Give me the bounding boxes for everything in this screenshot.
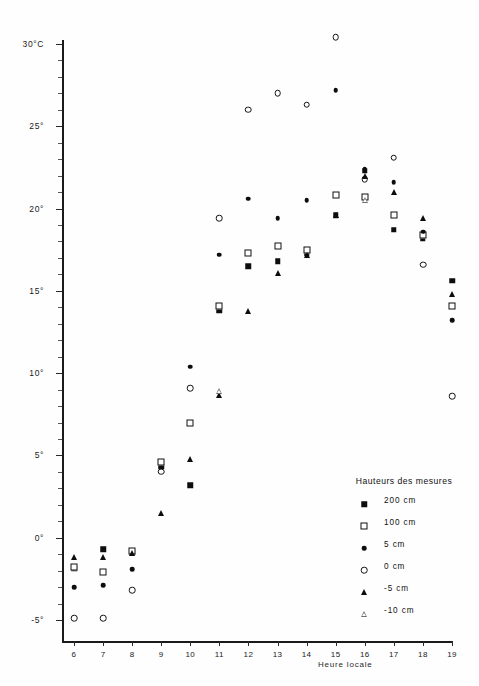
data-point	[188, 364, 193, 369]
legend-marker-filled-square	[361, 501, 367, 507]
x-tick	[394, 641, 395, 646]
y-tick	[56, 620, 62, 621]
data-point	[449, 278, 455, 284]
y-tick	[58, 472, 62, 473]
data-point	[275, 216, 280, 221]
y-axis-line	[62, 40, 64, 642]
data-point	[100, 569, 107, 576]
x-tick	[161, 641, 162, 646]
data-point	[303, 102, 310, 109]
x-tick-label: 6	[64, 650, 84, 659]
scatter-chart-figure: 30°C25°20°15°10°5°0°-5° 6789101112131415…	[0, 0, 479, 686]
data-point	[158, 469, 165, 476]
y-tick	[58, 324, 62, 325]
data-point	[449, 393, 456, 400]
data-point	[71, 554, 77, 560]
y-tick	[56, 373, 62, 374]
x-tick-label: 14	[297, 650, 317, 659]
legend-label: 0 cm	[384, 562, 405, 571]
x-tick	[219, 641, 220, 646]
data-point	[71, 564, 78, 571]
data-point	[274, 90, 281, 97]
y-tick	[56, 126, 62, 127]
data-point	[391, 189, 397, 195]
y-tick	[58, 439, 62, 440]
data-point	[130, 567, 135, 572]
x-tick-label: 18	[413, 650, 433, 659]
y-tick-label: 20°	[0, 204, 44, 214]
y-tick	[58, 571, 62, 572]
data-point	[333, 88, 338, 93]
legend-marker-open-circle	[361, 567, 368, 574]
x-tick-label: 10	[180, 650, 200, 659]
legend: Hauteurs des mesures 200 cm100 cm5 cm0 c…	[338, 476, 470, 627]
x-tick	[336, 641, 337, 646]
y-tick	[58, 143, 62, 144]
data-point	[275, 270, 281, 276]
x-tick-label: 15	[326, 650, 346, 659]
x-tick	[74, 641, 75, 646]
data-point	[332, 34, 339, 41]
y-tick	[58, 406, 62, 407]
y-tick	[56, 455, 62, 456]
y-tick	[58, 60, 62, 61]
data-point	[391, 227, 397, 233]
data-point	[333, 212, 339, 218]
x-tick	[307, 641, 308, 646]
legend-item-0-cm: 0 cm	[338, 561, 470, 583]
data-point	[72, 585, 77, 590]
x-tick-label: 9	[151, 650, 171, 659]
data-point	[187, 385, 194, 392]
data-point	[274, 243, 281, 250]
y-tick	[58, 357, 62, 358]
x-tick	[248, 641, 249, 646]
y-tick-label: 5°	[0, 450, 44, 460]
legend-item-200-cm: 200 cm	[338, 495, 470, 517]
y-tick	[58, 505, 62, 506]
data-point	[101, 583, 106, 588]
data-point	[420, 261, 427, 268]
y-tick	[56, 209, 62, 210]
x-tick	[423, 641, 424, 646]
data-point	[304, 198, 309, 203]
x-tick	[132, 641, 133, 646]
legend-item--10-cm: -10 cm	[338, 605, 470, 627]
data-point	[129, 550, 135, 556]
y-tick-label: -5°	[0, 615, 44, 625]
legend-title: Hauteurs des mesures	[338, 476, 470, 486]
x-tick	[190, 641, 191, 646]
data-point	[392, 180, 397, 185]
y-tick	[58, 604, 62, 605]
legend-label: 100 cm	[384, 518, 416, 527]
y-tick	[58, 241, 62, 242]
data-point	[100, 554, 106, 560]
data-point	[450, 318, 455, 323]
y-tick-label: 10°	[0, 368, 44, 378]
legend-label: 5 cm	[384, 540, 405, 549]
y-tick	[58, 423, 62, 424]
data-point	[362, 197, 368, 203]
y-tick	[58, 488, 62, 489]
legend-marker-filled-circle	[362, 546, 367, 551]
legend-label: -5 cm	[384, 584, 409, 593]
x-tick	[452, 641, 453, 646]
y-tick-label: 30°C	[0, 39, 44, 49]
y-tick	[58, 587, 62, 588]
x-tick	[103, 641, 104, 646]
data-point	[216, 215, 223, 222]
y-tick	[58, 77, 62, 78]
data-point	[217, 252, 222, 257]
x-tick	[278, 641, 279, 646]
y-tick	[58, 225, 62, 226]
y-tick	[58, 110, 62, 111]
data-point	[71, 615, 78, 622]
data-point	[421, 229, 426, 234]
y-tick	[58, 159, 62, 160]
y-tick	[58, 390, 62, 391]
y-tick	[58, 340, 62, 341]
data-point	[275, 258, 281, 264]
y-tick	[58, 307, 62, 308]
data-point	[391, 154, 398, 161]
data-point	[129, 587, 136, 594]
legend-marker-filled-triangle	[361, 589, 367, 595]
